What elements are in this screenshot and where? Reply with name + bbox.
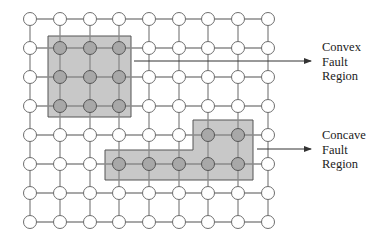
mesh-node — [24, 42, 37, 55]
mesh-node — [262, 42, 275, 55]
faulty-node — [113, 71, 126, 84]
mesh-node — [143, 187, 156, 200]
mesh-node — [262, 187, 275, 200]
mesh-node — [202, 216, 215, 229]
mesh-node — [143, 216, 156, 229]
mesh-node — [113, 13, 126, 26]
mesh-node — [24, 187, 37, 200]
mesh-node — [262, 100, 275, 113]
mesh-node — [232, 100, 245, 113]
mesh-node — [143, 100, 156, 113]
mesh-node — [202, 42, 215, 55]
mesh-node — [54, 129, 67, 142]
mesh-node — [143, 13, 156, 26]
mesh-node — [173, 100, 186, 113]
concave-fault-region-label: Concave Fault Region — [322, 128, 366, 172]
mesh-node — [173, 187, 186, 200]
faulty-node — [84, 71, 97, 84]
mesh-node — [202, 100, 215, 113]
mesh-node — [232, 71, 245, 84]
mesh-node — [24, 71, 37, 84]
mesh-node — [84, 129, 97, 142]
faulty-node — [143, 158, 156, 171]
mesh-node — [262, 216, 275, 229]
mesh-node — [202, 187, 215, 200]
faulty-node — [232, 158, 245, 171]
mesh-node — [173, 216, 186, 229]
mesh-node — [143, 71, 156, 84]
faulty-node — [84, 42, 97, 55]
mesh-node — [113, 216, 126, 229]
mesh-node — [262, 129, 275, 142]
mesh-node — [54, 158, 67, 171]
mesh-node — [24, 13, 37, 26]
faulty-node — [113, 158, 126, 171]
faulty-node — [113, 100, 126, 113]
fault-region-diagram: Convex Fault Region Concave Fault Region — [0, 0, 386, 245]
faulty-node — [54, 42, 67, 55]
mesh-node — [24, 129, 37, 142]
mesh-node — [232, 216, 245, 229]
faulty-node — [202, 158, 215, 171]
mesh-node — [113, 187, 126, 200]
mesh-node — [24, 158, 37, 171]
mesh-node — [262, 13, 275, 26]
mesh-diagram-canvas — [0, 0, 386, 245]
mesh-node — [113, 129, 126, 142]
faulty-node — [113, 42, 126, 55]
mesh-node — [173, 13, 186, 26]
mesh-node — [24, 216, 37, 229]
mesh-node — [232, 42, 245, 55]
faulty-node — [84, 100, 97, 113]
faulty-node — [173, 158, 186, 171]
mesh-node — [173, 42, 186, 55]
mesh-node — [232, 13, 245, 26]
mesh-node — [262, 158, 275, 171]
faulty-node — [54, 71, 67, 84]
convex-fault-region-label: Convex Fault Region — [322, 40, 361, 84]
mesh-node — [84, 187, 97, 200]
mesh-node — [24, 100, 37, 113]
mesh-node — [143, 42, 156, 55]
faulty-node — [54, 100, 67, 113]
mesh-node — [173, 129, 186, 142]
mesh-node — [54, 13, 67, 26]
mesh-node — [202, 13, 215, 26]
mesh-node — [173, 71, 186, 84]
mesh-node — [84, 13, 97, 26]
mesh-node — [54, 187, 67, 200]
faulty-node — [202, 129, 215, 142]
mesh-node — [84, 216, 97, 229]
mesh-node — [54, 216, 67, 229]
mesh-node — [84, 158, 97, 171]
mesh-node — [232, 187, 245, 200]
mesh-node — [262, 71, 275, 84]
mesh-node — [143, 129, 156, 142]
mesh-node — [202, 71, 215, 84]
faulty-node — [232, 129, 245, 142]
